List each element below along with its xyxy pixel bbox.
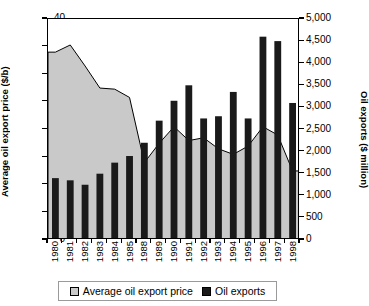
x-label-1989: 1989 bbox=[153, 241, 164, 262]
right-tick-label: 500 bbox=[306, 212, 352, 222]
x-label-1991: 1991 bbox=[183, 241, 194, 262]
x-label-1982: 1982 bbox=[79, 241, 90, 262]
x-label-1990: 1990 bbox=[168, 241, 179, 262]
bar-1980 bbox=[52, 178, 59, 238]
bar-1991 bbox=[185, 85, 192, 238]
bar-swatch-icon bbox=[202, 287, 211, 296]
bar-1981 bbox=[67, 180, 74, 238]
right-tick-mark bbox=[299, 128, 304, 129]
x-axis-labels: 1980198119821983198419851988198919901991… bbox=[47, 241, 299, 281]
right-tick-mark bbox=[299, 84, 304, 85]
right-tick-mark bbox=[299, 238, 304, 239]
chart-legend: Average oil export price Oil exports bbox=[58, 281, 277, 301]
bar-1983 bbox=[96, 174, 103, 238]
x-label-1993: 1993 bbox=[212, 241, 223, 262]
right-tick-label: 1,500 bbox=[306, 168, 352, 178]
x-label-1994: 1994 bbox=[227, 241, 238, 262]
bar-1989 bbox=[156, 121, 163, 238]
bar-1988 bbox=[141, 143, 148, 238]
bar-1984 bbox=[111, 163, 118, 238]
x-label-1997: 1997 bbox=[272, 241, 283, 262]
right-tick-mark bbox=[299, 17, 304, 18]
right-tick-mark bbox=[299, 40, 304, 41]
x-label-1996: 1996 bbox=[257, 241, 268, 262]
x-label-1981: 1981 bbox=[64, 241, 75, 262]
x-label-1984: 1984 bbox=[109, 241, 120, 262]
legend-item-price: Average oil export price bbox=[70, 285, 193, 297]
right-tick-label: 3,500 bbox=[306, 79, 352, 89]
right-tick-label: 2,000 bbox=[306, 146, 352, 156]
bar-1997 bbox=[274, 41, 281, 238]
right-tick-mark bbox=[299, 62, 304, 63]
right-tick-label: 3,000 bbox=[306, 101, 352, 111]
bar-1998 bbox=[289, 103, 296, 238]
x-label-1983: 1983 bbox=[94, 241, 105, 262]
right-tick-mark bbox=[299, 216, 304, 217]
area-swatch-icon bbox=[70, 287, 79, 296]
right-axis-title: Oil exports ($ million) bbox=[359, 40, 369, 240]
x-label-1998: 1998 bbox=[287, 241, 298, 262]
bar-1996 bbox=[260, 37, 267, 238]
right-tick-mark bbox=[299, 106, 304, 107]
right-tick-label: 5,000 bbox=[306, 13, 352, 23]
x-label-1985: 1985 bbox=[124, 241, 135, 262]
right-tick-label: 2,500 bbox=[306, 124, 352, 134]
chart-canvas bbox=[48, 19, 298, 238]
right-tick-mark bbox=[299, 172, 304, 173]
right-tick-label: 0 bbox=[306, 234, 352, 244]
right-tick-label: 4,000 bbox=[306, 57, 352, 67]
legend-label-price: Average oil export price bbox=[83, 285, 193, 297]
bar-1994 bbox=[230, 92, 237, 238]
chart-figure: Average oil export price ($/b) Oil expor… bbox=[0, 0, 369, 306]
bar-1995 bbox=[245, 118, 252, 238]
right-tick-mark bbox=[299, 194, 304, 195]
x-label-1992: 1992 bbox=[198, 241, 209, 262]
x-label-1995: 1995 bbox=[242, 241, 253, 262]
bar-1982 bbox=[82, 185, 89, 238]
left-axis-title: Average oil export price ($/b) bbox=[0, 18, 10, 246]
x-label-1980: 1980 bbox=[49, 241, 60, 262]
right-tick-mark bbox=[299, 150, 304, 151]
legend-label-exports: Oil exports bbox=[215, 285, 265, 297]
bar-1992 bbox=[200, 118, 207, 238]
right-tick-label: 1,000 bbox=[306, 190, 352, 200]
right-tick-label: 4,500 bbox=[306, 35, 352, 45]
bar-1993 bbox=[215, 116, 222, 238]
bar-1985 bbox=[126, 156, 133, 238]
x-label-1988: 1988 bbox=[138, 241, 149, 262]
plot-area bbox=[47, 18, 299, 239]
bar-1990 bbox=[171, 101, 178, 238]
legend-item-exports: Oil exports bbox=[202, 285, 265, 297]
